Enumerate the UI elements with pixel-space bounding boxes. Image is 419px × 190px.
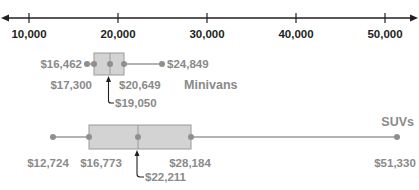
x-axis: 10,000 20,000 30,000 40,000 50,000 — [1, 13, 418, 40]
q1-label: $17,300 — [50, 79, 92, 91]
tick-label: 30,000 — [189, 28, 224, 40]
median-label: $19,050 — [115, 97, 157, 109]
minivans-boxplot: $16,462 $24,849 $17,300 $20,649 $19,050 … — [40, 53, 237, 109]
min-point — [50, 134, 56, 140]
tick-label: 40,000 — [278, 28, 313, 40]
q1-label: $16,773 — [80, 157, 122, 169]
axis-left-arrow-icon — [1, 15, 9, 22]
max-label: $24,849 — [167, 58, 209, 70]
median-label: $22,211 — [145, 171, 187, 183]
suvs-boxplot: $12,724 $16,773 $28,184 $51,330 $22,211 … — [27, 115, 416, 183]
tick-label: 20,000 — [100, 28, 135, 40]
min-point — [84, 61, 90, 67]
q3-label: $28,184 — [169, 157, 211, 169]
max-point — [394, 134, 400, 140]
tick-label: 50,000 — [367, 28, 402, 40]
median-point — [135, 134, 141, 140]
median-point — [107, 61, 113, 67]
min-label: $12,724 — [27, 157, 69, 169]
series-label-minivans: Minivans — [184, 78, 238, 92]
arrow-up-icon — [135, 150, 140, 156]
q3-point — [188, 134, 194, 140]
axis-right-arrow-icon — [410, 15, 418, 22]
tick-label: 10,000 — [11, 28, 46, 40]
q1-point — [86, 134, 92, 140]
arrow-up-icon — [106, 76, 111, 82]
max-point — [159, 61, 165, 67]
q1-point — [91, 61, 97, 67]
max-label: $51,330 — [374, 157, 416, 169]
min-label: $16,462 — [40, 58, 82, 70]
q3-point — [121, 61, 127, 67]
box-plot-chart: 10,000 20,000 30,000 40,000 50,000 $16,4… — [0, 0, 419, 190]
q3-label: $20,649 — [119, 79, 161, 91]
series-label-suvs: SUVs — [381, 115, 414, 129]
